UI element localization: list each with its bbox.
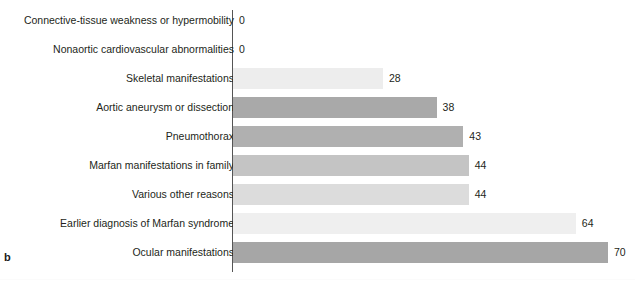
bar [233,213,576,234]
bar-value-label: 0 [239,39,245,60]
bar-category-label: Ocular manifestations [14,242,234,263]
bar-category-label: Pneumothorax [14,126,234,147]
bar [233,97,437,118]
bar [233,184,469,205]
bar-category-label: Connective-tissue weakness or hypermobil… [14,10,234,31]
bar [233,126,463,147]
bar-category-label: Earlier diagnosis of Marfan syndrome [14,213,234,234]
bar-row: Nonaortic cardiovascular abnormalities0 [0,39,635,68]
bar-value-label: 43 [469,126,481,147]
bar-row: Pneumothorax43 [0,126,635,155]
bar-row: Earlier diagnosis of Marfan syndrome64 [0,213,635,242]
bar-row: Skeletal manifestations28 [0,68,635,97]
bar-row: Ocular manifestations70 [0,242,635,271]
bar-value-label: 28 [389,68,401,89]
bar-category-label: Aortic aneurysm or dissection [14,97,234,118]
bar [233,155,469,176]
bar-value-label: 44 [475,155,487,176]
bar-value-label: 64 [582,213,594,234]
bar-row: Connective-tissue weakness or hypermobil… [0,10,635,39]
bar-category-label: Skeletal manifestations [14,68,234,89]
bar-value-label: 38 [443,97,455,118]
bar-value-label: 70 [614,242,626,263]
chart-figure: b Connective-tissue weakness or hypermob… [0,0,635,281]
bar-category-label: Various other reasons [14,184,234,205]
bar-value-label: 0 [239,10,245,31]
bar-row: Various other reasons44 [0,184,635,213]
bar-rows-container: Connective-tissue weakness or hypermobil… [0,10,635,271]
bar-row: Marfan manifestations in family44 [0,155,635,184]
bar-category-label: Nonaortic cardiovascular abnormalities [14,39,234,60]
bar-value-label: 44 [475,184,487,205]
bar [233,68,383,89]
figure-bottom-edge [0,279,635,280]
bar-category-label: Marfan manifestations in family [14,155,234,176]
bar [233,242,608,263]
bar-row: Aortic aneurysm or dissection38 [0,97,635,126]
